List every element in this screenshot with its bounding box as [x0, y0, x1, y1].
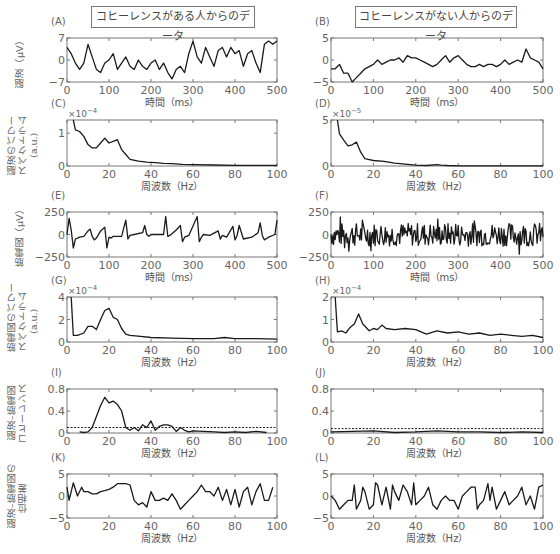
y-tick-label: 0: [322, 54, 329, 67]
x-axis-label-E: 時間（ms）: [67, 269, 277, 284]
y-tick-label: 0: [58, 336, 65, 349]
data-series-line: [337, 120, 543, 166]
x-axis-label-H: 周波数（Hz）: [331, 354, 543, 369]
y-tick-label: 0.4: [312, 405, 330, 418]
y-tick-label: −5: [313, 76, 329, 89]
x-axis-label-J: 周波数（Hz）: [331, 445, 543, 460]
data-series-line: [331, 483, 543, 509]
y-tick-label: 0.8: [312, 383, 330, 396]
left-title-box: コヒーレンスがある人からのデータ: [91, 6, 255, 28]
y-tick-label: 0: [58, 490, 65, 503]
y-tick-label: 0: [58, 54, 65, 67]
y-tick-label: 0: [58, 229, 65, 242]
data-series-line: [67, 41, 277, 79]
y-tick-label: 0.4: [48, 405, 66, 418]
y-tick-label: 0: [58, 427, 65, 440]
y-tick-label: 5: [322, 32, 329, 45]
data-series-line: [73, 120, 277, 165]
y-tick-label: 5: [322, 114, 329, 127]
data-series-line: [331, 217, 543, 254]
data-series-line: [67, 483, 273, 509]
y-tick-label: 0: [322, 229, 329, 242]
scale-exponent: ×10−4: [68, 284, 98, 296]
x-axis-label-F: 時間（ms）: [331, 269, 543, 284]
data-series-line: [67, 217, 277, 249]
y-tick-label: −250: [35, 251, 65, 264]
y-tick-label: 2: [58, 314, 65, 327]
scale-exponent: ×10−4: [332, 284, 362, 296]
y-tick-label: 1: [322, 314, 329, 327]
y-tick-label: 5: [322, 468, 329, 481]
y-tick-label: −250: [299, 251, 329, 264]
y-tick-label: 0.8: [48, 383, 66, 396]
x-axis-label-K: 周波数（Hz）: [67, 530, 277, 545]
x-axis-label-L: 周波数（Hz）: [331, 530, 543, 545]
x-axis-label-D: 周波数（Hz）: [331, 178, 543, 193]
x-axis-label-A: 時間（ms）: [67, 94, 277, 109]
x-axis-label-B: 時間（ms）: [331, 94, 543, 109]
scale-exponent: ×10−4: [68, 107, 98, 119]
y-tick-label: −5: [313, 512, 329, 525]
x-axis-label-I: 周波数（Hz）: [67, 445, 277, 460]
y-tick-label: 2: [322, 291, 329, 304]
y-tick-label: 250: [308, 206, 329, 219]
y-tick-label: 250: [44, 206, 65, 219]
y-tick-label: 0: [58, 160, 65, 173]
x-axis-label-C: 周波数（Hz）: [67, 178, 277, 193]
y-tick-label: −5: [49, 512, 65, 525]
row-ylabel: 脳波–筋電図の位相差: [6, 468, 28, 528]
y-tick-label: −7: [49, 76, 65, 89]
y-tick-label: 0: [322, 160, 329, 173]
y-tick-label: 4: [58, 291, 65, 304]
y-tick-label: 0: [322, 490, 329, 503]
data-series-line: [71, 297, 277, 339]
right-title-box: コヒーレンスがない人からのデータ: [355, 6, 517, 28]
y-tick-label: 7: [58, 32, 65, 45]
data-series-line: [80, 397, 267, 432]
row-ylabel: 脳波–筋電図コヒーレンス: [6, 383, 28, 443]
scale-exponent: ×10−5: [332, 107, 361, 119]
data-series-line: [335, 297, 543, 338]
y-tick-label: 0: [322, 427, 329, 440]
data-series-line: [331, 431, 543, 433]
row-ylabel: 脳波（μV）: [14, 32, 25, 92]
row-ylabel: 筋電図（μV）: [14, 206, 25, 267]
x-axis-label-G: 周波数（Hz）: [67, 354, 277, 369]
y-tick-label: 5: [58, 468, 65, 481]
data-series-line: [331, 49, 543, 82]
y-tick-label: 1: [58, 127, 65, 140]
y-tick-label: 0: [322, 336, 329, 349]
